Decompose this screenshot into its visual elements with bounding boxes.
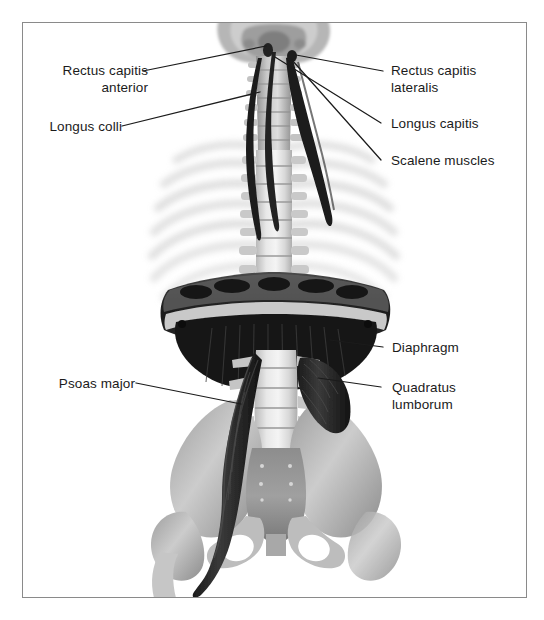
label-scalene-muscles: Scalene muscles [391, 152, 517, 169]
label-rectus-capitis-anterior: Rectus capitis anterior [44, 62, 148, 96]
label-psoas-major: Psoas major [45, 375, 135, 392]
label-rectus-capitis-lateralis: Rectus capitis lateralis [391, 62, 511, 96]
label-diaphragm: Diaphragm [392, 339, 502, 356]
label-longus-capitis: Longus capitis [391, 115, 511, 132]
anatomy-figure: Rectus capitis anterior Longus colli Rec… [0, 0, 544, 620]
label-longus-colli: Longus colli [44, 118, 122, 135]
label-quadratus-lumborum: Quadratus lumborum [392, 379, 502, 413]
figure-border [22, 22, 527, 598]
